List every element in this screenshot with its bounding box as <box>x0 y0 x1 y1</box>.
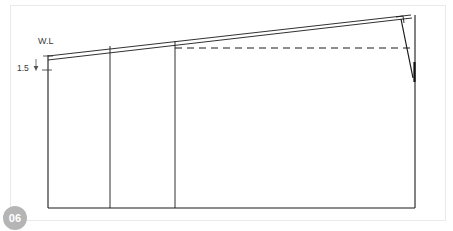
page-number-badge: 06 <box>3 206 27 230</box>
drawing-page: W.L 1.5 06 <box>0 0 453 231</box>
dimension-label: 1.5 <box>17 63 29 73</box>
sheer-line-upper <box>48 15 411 56</box>
down-arrow-icon <box>34 66 39 71</box>
waterline-label: W.L <box>38 36 54 46</box>
technical-drawing-canvas: W.L 1.5 <box>0 0 453 231</box>
sheer-line-lower <box>48 18 412 60</box>
